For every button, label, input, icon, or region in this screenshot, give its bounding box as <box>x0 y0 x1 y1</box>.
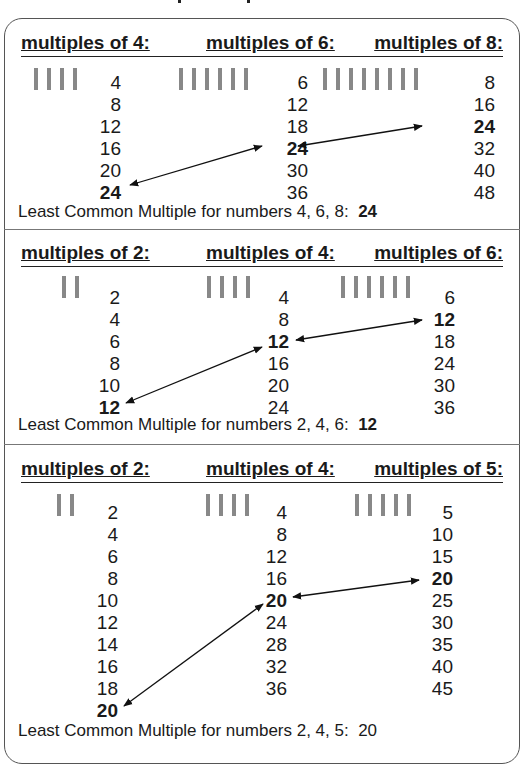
lcm-label: Least Common Multiple for numbers 2, 4, … <box>18 415 349 434</box>
tally-mark <box>401 68 405 90</box>
tally-mark <box>57 494 61 516</box>
multiple-value: 16 <box>97 656 118 678</box>
tally-mark <box>245 494 249 516</box>
multiple-value: 40 <box>432 656 453 678</box>
multiple-value: 12 <box>287 94 308 116</box>
multiple-value: 6 <box>99 331 120 353</box>
tally-marks-col-2 <box>179 68 248 90</box>
lcm-value: 20 <box>358 721 377 740</box>
tally-mark <box>192 68 196 90</box>
multiple-value: 6 <box>434 287 455 309</box>
header-col-2: multiples of 4: <box>206 458 335 480</box>
tally-marks-col-2 <box>206 494 249 516</box>
lcm-label: Least Common Multiple for numbers 2, 4, … <box>18 721 349 740</box>
tally-mark <box>206 494 210 516</box>
lcm-statement: Least Common Multiple for numbers 2, 4, … <box>18 415 377 435</box>
multiple-value: 6 <box>97 546 118 568</box>
multiple-value: 12 <box>100 116 121 138</box>
multiple-value: 36 <box>266 678 287 700</box>
multiple-value: 5 <box>432 502 453 524</box>
multiple-value: 6 <box>287 72 308 94</box>
multiple-value: 35 <box>432 634 453 656</box>
multiple-value: 2 <box>99 287 120 309</box>
column-headers: multiples of 2: multiples of 4: multiple… <box>21 242 503 267</box>
tally-mark <box>388 68 392 90</box>
multiples-column-1: 24681012 <box>99 287 120 419</box>
tally-mark <box>246 276 250 298</box>
multiples-column-3: 61218243036 <box>434 287 455 419</box>
multiple-value: 16 <box>266 568 287 590</box>
multiple-value: 18 <box>287 116 308 138</box>
tally-mark <box>341 276 345 298</box>
multiple-value: 4 <box>266 502 287 524</box>
multiples-column-2: 4812162024283236 <box>266 502 287 700</box>
multiple-value: 45 <box>432 678 453 700</box>
tally-mark <box>218 68 222 90</box>
multiple-value: 18 <box>97 678 118 700</box>
multiple-value: 18 <box>434 331 455 353</box>
tally-marks-col-3 <box>323 68 418 90</box>
tally-mark <box>368 494 372 516</box>
common-multiple-value: 20 <box>266 590 287 612</box>
common-multiple-value: 24 <box>287 138 308 160</box>
multiple-value: 4 <box>100 72 121 94</box>
common-multiple-value: 12 <box>268 331 289 353</box>
section-divider <box>4 229 520 230</box>
section-lcm-2-4-5: multiples of 2: multiples of 4: multiple… <box>4 448 520 748</box>
tally-marks-col-1 <box>34 68 77 90</box>
tally-mark <box>407 494 411 516</box>
tally-mark <box>220 276 224 298</box>
multiples-column-3: 81624324048 <box>474 72 495 204</box>
tally-mark <box>354 276 358 298</box>
multiple-value: 8 <box>97 568 118 590</box>
multiple-value: 4 <box>97 524 118 546</box>
multiple-value: 10 <box>432 524 453 546</box>
header-col-3: multiples of 6: <box>374 242 503 264</box>
multiple-value: 10 <box>97 590 118 612</box>
header-col-2: multiples of 6: <box>206 32 335 54</box>
header-col-3: multiples of 5: <box>374 458 503 480</box>
tally-marks-col-1 <box>62 276 79 298</box>
tally-marks-col-2 <box>207 276 250 298</box>
multiple-value: 16 <box>100 138 121 160</box>
common-multiple-value: 20 <box>97 700 118 722</box>
multiple-value: 40 <box>474 160 495 182</box>
tally-mark <box>406 276 410 298</box>
section-lcm-4-6-8: multiples of 4: multiples of 6: multiple… <box>4 22 520 227</box>
tally-marks-col-3 <box>341 276 410 298</box>
multiple-value: 32 <box>474 138 495 160</box>
tally-mark <box>73 68 77 90</box>
lcm-value: 12 <box>358 415 377 434</box>
cropped-title-fragment <box>247 0 250 3</box>
multiples-column-2: 61218243036 <box>287 72 308 204</box>
tally-mark <box>219 494 223 516</box>
tally-mark <box>205 68 209 90</box>
tally-mark <box>414 68 418 90</box>
tally-mark <box>231 68 235 90</box>
multiple-value: 36 <box>434 397 455 419</box>
multiple-value: 8 <box>100 94 121 116</box>
multiple-value: 16 <box>268 353 289 375</box>
header-col-3: multiples of 8: <box>374 32 503 54</box>
multiple-value: 20 <box>268 375 289 397</box>
multiple-value: 30 <box>432 612 453 634</box>
tally-mark <box>62 276 66 298</box>
multiple-value: 2 <box>97 502 118 524</box>
tally-mark <box>380 276 384 298</box>
tally-mark <box>375 68 379 90</box>
multiple-value: 20 <box>100 160 121 182</box>
header-col-2: multiples of 4: <box>206 242 335 264</box>
tally-mark <box>381 494 385 516</box>
tally-mark <box>393 276 397 298</box>
multiples-column-3: 51015202530354045 <box>432 502 453 700</box>
header-col-1: multiples of 2: <box>21 458 150 480</box>
common-multiple-value: 12 <box>434 309 455 331</box>
multiple-value: 8 <box>474 72 495 94</box>
multiple-value: 28 <box>266 634 287 656</box>
common-multiple-value: 24 <box>100 182 121 204</box>
multiple-value: 25 <box>432 590 453 612</box>
multiple-value: 24 <box>266 612 287 634</box>
multiple-value: 30 <box>287 160 308 182</box>
tally-mark <box>207 276 211 298</box>
header-col-1: multiples of 4: <box>21 32 150 54</box>
